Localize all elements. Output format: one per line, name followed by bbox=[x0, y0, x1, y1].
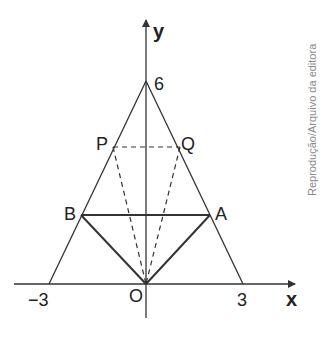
point-label-B: B bbox=[64, 204, 76, 224]
point-label-Q: Q bbox=[181, 134, 195, 154]
triangle-right-side bbox=[146, 81, 243, 284]
point-label-P: P bbox=[96, 134, 108, 154]
x-tick-3: 3 bbox=[237, 290, 247, 310]
segment-BO bbox=[81, 215, 146, 284]
point-label-A: A bbox=[215, 204, 227, 224]
x-tick-neg3: −3 bbox=[28, 290, 49, 310]
y-axis-label: y bbox=[153, 20, 165, 42]
x-axis-label: x bbox=[286, 288, 297, 310]
y-tick-6: 6 bbox=[154, 74, 164, 94]
image-credit: Reprodução/Arquivo da editora bbox=[306, 43, 318, 196]
origin-label: O bbox=[129, 286, 143, 306]
coordinate-diagram: y x 6 P Q B A O −3 3 Reprodução/Arquivo … bbox=[0, 0, 335, 337]
triangle-left-side bbox=[49, 81, 146, 284]
segment-AO bbox=[146, 215, 210, 284]
